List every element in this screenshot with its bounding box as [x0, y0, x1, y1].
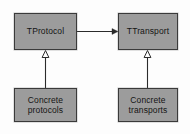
uml-node-label: TProtocol: [25, 26, 66, 37]
connector-concrete-transports-to-transport: [144, 51, 151, 89]
uml-node-concrete-protocols[interactable]: Concrete protocols: [14, 88, 77, 122]
hollow-triangle-arrowhead-icon: [144, 51, 151, 58]
hollow-triangle-arrowhead-icon: [42, 51, 49, 58]
uml-node-label: Concrete protocols: [26, 95, 65, 116]
diagram-canvas: TProtocol TTransport Concrete protocols …: [0, 0, 190, 134]
uml-node-ttransport[interactable]: TTransport: [118, 13, 178, 50]
uml-node-label: Concrete transports: [127, 95, 170, 116]
uml-node-tprotocol[interactable]: TProtocol: [14, 13, 77, 50]
uml-node-concrete-transports[interactable]: Concrete transports: [118, 88, 178, 122]
uml-node-label: TTransport: [125, 26, 171, 37]
connector-protocol-to-transport: [77, 29, 118, 35]
connector-concrete-protocols-to-protocol: [42, 51, 49, 89]
